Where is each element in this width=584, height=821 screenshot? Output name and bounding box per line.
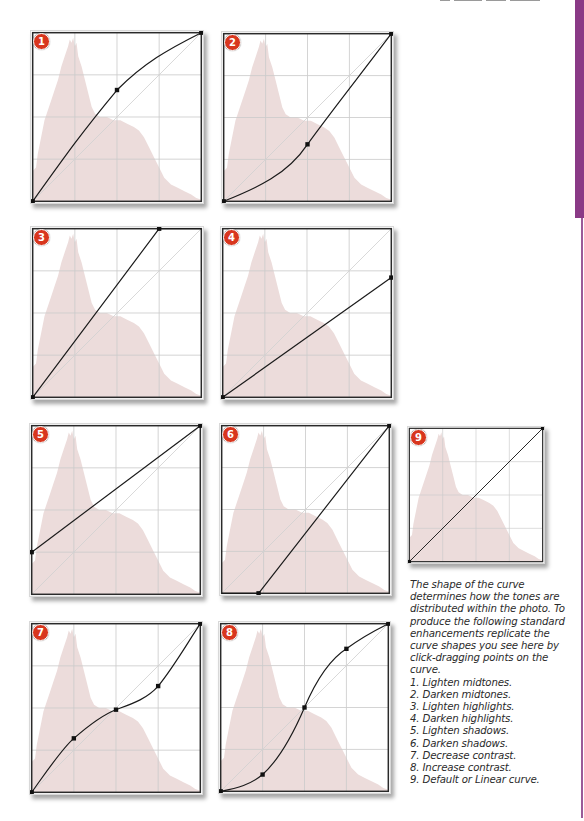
list-item: 9. Default or Linear curve. bbox=[410, 774, 580, 786]
curve-control-point[interactable] bbox=[31, 395, 35, 399]
curve-control-point[interactable] bbox=[222, 199, 226, 203]
list-item: 6. Darken shadows. bbox=[410, 738, 580, 750]
list-item: 1. Lighten midtones. bbox=[410, 677, 580, 689]
curve-graph bbox=[220, 424, 391, 595]
page-edge-rule bbox=[581, 218, 583, 818]
cropped-header-text bbox=[440, 0, 560, 3]
curve-panel-6: 6 bbox=[219, 423, 392, 596]
curve-panel-7: 7 bbox=[29, 621, 203, 795]
curve-control-point[interactable] bbox=[256, 591, 260, 595]
curve-control-point[interactable] bbox=[156, 684, 160, 688]
list-item: 2. Darken midtones. bbox=[410, 689, 580, 701]
list-item: 4. Darken highlights. bbox=[410, 713, 580, 725]
step-number-badge: 7 bbox=[32, 624, 49, 641]
curve-panel-1: 1 bbox=[30, 30, 204, 204]
curve-control-point[interactable] bbox=[305, 142, 309, 146]
curve-control-point[interactable] bbox=[302, 705, 306, 709]
curve-control-point[interactable] bbox=[198, 622, 202, 626]
chapter-side-tab bbox=[575, 0, 584, 218]
curve-control-point[interactable] bbox=[198, 424, 202, 428]
step-number-badge: 2 bbox=[224, 34, 241, 51]
caption-block: The shape of the curve determines how th… bbox=[410, 579, 580, 786]
caption-intro: The shape of the curve determines how th… bbox=[410, 579, 580, 677]
step-number-badge: 4 bbox=[223, 229, 240, 246]
curve-panel-9: 9 bbox=[407, 426, 545, 564]
curve-graph bbox=[30, 622, 202, 794]
list-item: 3. Lighten highlights. bbox=[410, 701, 580, 713]
step-number-badge: 3 bbox=[33, 229, 50, 246]
curve-control-point[interactable] bbox=[219, 789, 223, 793]
curve-panel-4: 4 bbox=[220, 226, 394, 400]
enhancement-list: 1. Lighten midtones. 2. Darken midtones.… bbox=[410, 677, 580, 787]
curve-control-point[interactable] bbox=[260, 772, 264, 776]
curve-control-point[interactable] bbox=[30, 550, 34, 554]
step-number-badge: 5 bbox=[32, 426, 49, 443]
curve-graph bbox=[222, 32, 393, 203]
list-item: 5. Lighten shadows. bbox=[410, 725, 580, 737]
curve-panel-5: 5 bbox=[29, 423, 203, 597]
curve-control-point[interactable] bbox=[115, 88, 119, 92]
curve-control-point[interactable] bbox=[389, 32, 393, 36]
curve-control-point[interactable] bbox=[221, 395, 225, 399]
curve-graph bbox=[31, 31, 203, 203]
curve-control-point[interactable] bbox=[389, 275, 393, 279]
curve-control-point[interactable] bbox=[72, 736, 76, 740]
curve-panel-2: 2 bbox=[221, 31, 394, 204]
curve-control-point[interactable] bbox=[199, 31, 203, 35]
curve-control-point[interactable] bbox=[114, 707, 118, 711]
list-item: 8. Increase contrast. bbox=[410, 762, 580, 774]
curve-graph bbox=[408, 427, 544, 563]
step-number-badge: 6 bbox=[222, 426, 239, 443]
curve-graph bbox=[31, 227, 203, 399]
curve-control-point[interactable] bbox=[387, 424, 391, 428]
curve-graph bbox=[30, 424, 202, 596]
step-number-badge: 8 bbox=[221, 624, 238, 641]
curve-panel-3: 3 bbox=[30, 226, 204, 400]
curve-control-point[interactable] bbox=[344, 647, 348, 651]
curve-control-point[interactable] bbox=[408, 560, 411, 563]
curve-graph bbox=[219, 622, 390, 793]
step-number-badge: 9 bbox=[410, 429, 427, 446]
step-number-badge: 1 bbox=[33, 33, 50, 50]
curve-control-point[interactable] bbox=[30, 790, 34, 794]
curve-control-point[interactable] bbox=[31, 199, 35, 203]
list-item: 7. Decrease contrast. bbox=[410, 750, 580, 762]
curve-control-point[interactable] bbox=[386, 622, 390, 626]
curve-control-point[interactable] bbox=[157, 227, 161, 231]
curve-control-point[interactable] bbox=[541, 427, 544, 430]
curve-panel-8: 8 bbox=[218, 621, 391, 794]
curve-graph bbox=[221, 227, 393, 399]
